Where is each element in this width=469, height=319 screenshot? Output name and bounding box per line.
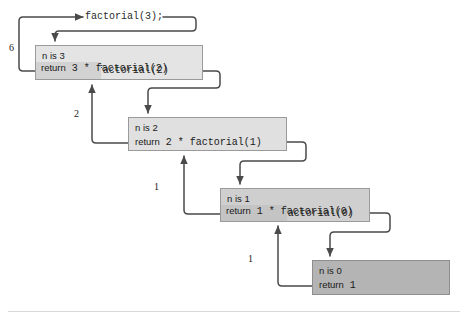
return-arrow-1b	[278, 226, 312, 286]
frame-return-line: return 2 * factorial(1)	[135, 135, 286, 149]
return-expression-overlay: 1 * factorial(0)	[257, 206, 353, 217]
return-arrow-1a	[184, 156, 220, 214]
return-value-label-6: 6	[9, 42, 14, 53]
recursion-trace-diagram: factorial(3); n is 3 return 3 * factoria…	[0, 0, 469, 319]
return-expression: 2 * factorial(1)	[166, 137, 262, 148]
stack-frame-n0: n is 0 return 1	[312, 260, 450, 295]
return-value-label-1b: 1	[248, 253, 253, 264]
initial-call-label: factorial(3);	[85, 11, 163, 22]
stack-frame-n2: n is 2 return 2 * factorial(1)	[128, 117, 287, 151]
bottom-divider	[8, 311, 460, 312]
frame-n3-return-overlay: return 3 * factorial(2)	[41, 62, 168, 74]
return-value-label-1a: 1	[154, 181, 159, 192]
return-value-label-2: 2	[74, 108, 79, 119]
return-keyword-overlay: return	[226, 205, 251, 216]
frame-n1-return-overlay: return 1 * factorial(0)	[226, 205, 353, 217]
frame-n-label: n is 0	[319, 264, 449, 277]
return-arrow-2	[92, 85, 128, 143]
return-expression-overlay: 3 * factorial(2)	[72, 63, 168, 74]
return-expression: 1	[350, 280, 356, 291]
return-keyword-overlay: return	[41, 62, 66, 73]
frame-return-line: return 1	[319, 278, 449, 292]
frame-n-label: n is 3	[42, 49, 202, 62]
frame-n-label: n is 2	[135, 121, 286, 134]
frame-n-label: n is 1	[227, 192, 369, 205]
return-keyword: return	[135, 136, 160, 147]
return-keyword: return	[319, 279, 344, 290]
